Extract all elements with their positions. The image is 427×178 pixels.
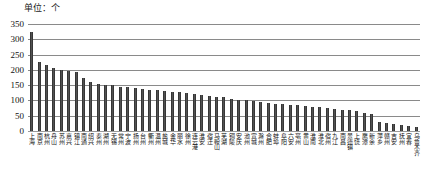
x-axis-label: 宜春 [406, 133, 412, 144]
plot-area [28, 24, 420, 131]
gridline-0 [28, 131, 420, 132]
bar [385, 123, 388, 131]
bar-slot [316, 24, 323, 131]
x-axis-label: 杭州 [43, 133, 49, 144]
bar-slot [235, 24, 242, 131]
x-axis-label: 丽水 [176, 133, 182, 144]
bar-slot [58, 24, 65, 131]
x-axis-label: 赣州 [383, 133, 389, 144]
bar-slot [287, 24, 294, 131]
bar [111, 85, 114, 131]
x-axis-label: 滁州 [258, 133, 264, 144]
x-axis-label: 黄山 [302, 133, 308, 144]
bar [163, 91, 166, 131]
bar-slot [109, 24, 116, 131]
bar [311, 107, 314, 131]
bar-slot [294, 24, 301, 131]
x-label-slot: 衢州 [146, 133, 153, 178]
bar [148, 90, 151, 131]
bar-slot [198, 24, 205, 131]
bar-slot [242, 24, 249, 131]
x-label-slot: 舟山 [50, 133, 57, 178]
x-label-slot: 嘉兴 [65, 133, 72, 178]
bar [252, 101, 255, 131]
y-tick-350: 350 [11, 20, 25, 29]
x-label-slot: 池州 [242, 133, 249, 178]
bar-slot [95, 24, 102, 131]
bar [245, 100, 248, 131]
x-axis-label: 盐城 [162, 133, 168, 144]
x-axis-label: 衢州 [147, 133, 153, 144]
bar-slot [398, 24, 405, 131]
x-label-slot: 安庆 [235, 133, 242, 178]
x-label-slot: 淮北 [316, 133, 323, 178]
x-axis-label: 鹰潭 [361, 133, 367, 144]
x-axis-label: 亳州 [295, 133, 301, 144]
x-label-slot: 上饶 [353, 133, 360, 178]
bar [119, 87, 122, 131]
bar [97, 84, 100, 131]
x-axis-label: 萍乡 [376, 133, 382, 144]
bar-slot [43, 24, 50, 131]
bar-slot [279, 24, 286, 131]
bar [82, 78, 85, 132]
x-label-slot: 淮安 [198, 133, 205, 178]
bar [355, 111, 358, 131]
x-label-slot: 泰州 [95, 133, 102, 178]
x-label-slot: 蚌埠 [272, 133, 279, 178]
bar [318, 107, 321, 131]
bar-slot [72, 24, 79, 131]
bar [30, 32, 33, 131]
bar [363, 113, 366, 131]
bar [415, 127, 418, 131]
x-label-slot: 九江 [331, 133, 338, 178]
x-axis-label: 宣城 [250, 133, 256, 144]
bar [259, 102, 262, 131]
bar-slot [383, 24, 390, 131]
x-axis-label: 新余 [369, 133, 375, 144]
x-label-slot: 温州 [154, 133, 161, 178]
bar [230, 99, 233, 131]
x-axis-label: 泰州 [95, 133, 101, 144]
x-axis-label: 铜陵 [228, 133, 234, 144]
bar [75, 72, 78, 131]
x-axis-label: 景德镇 [346, 133, 352, 150]
x-label-slot: 上海 [28, 133, 35, 178]
x-axis-label: 池州 [243, 133, 249, 144]
y-tick-300: 300 [11, 35, 25, 44]
x-label-slot: 乌鲁木齐 [412, 133, 419, 178]
x-label-slot: 萍乡 [375, 133, 382, 178]
bar [208, 96, 211, 131]
bar [67, 71, 70, 131]
bar-slot [309, 24, 316, 131]
bar-slot [117, 24, 124, 131]
bar [185, 93, 188, 131]
bar [156, 90, 159, 131]
x-axis-label: 南昌 [339, 133, 345, 144]
bar [141, 89, 144, 131]
bar-slot [176, 24, 183, 131]
x-label-slot: 吉安 [390, 133, 397, 178]
x-axis-label: 淮南 [309, 133, 315, 144]
x-axis-label: 淮安 [199, 133, 205, 144]
bar-slot [265, 24, 272, 131]
x-label-slot: 杭州 [43, 133, 50, 178]
x-label-slot: 盐城 [161, 133, 168, 178]
x-label-slot: 镇江 [72, 133, 79, 178]
bar-slot [87, 24, 94, 131]
bar-slot [146, 24, 153, 131]
x-axis-label: 宿迁 [206, 133, 212, 144]
chart-unit-caption: 单位：个 [24, 1, 60, 14]
bar [104, 85, 107, 131]
bar-slot [412, 24, 419, 131]
x-label-slot: 丽水 [176, 133, 183, 178]
bar-slot [124, 24, 131, 131]
bar-slot [168, 24, 175, 131]
bar [171, 92, 174, 131]
x-label-slot: 宿迁 [205, 133, 212, 178]
x-label-slot: 扬州 [131, 133, 138, 178]
bar [378, 122, 381, 131]
bar-slot [331, 24, 338, 131]
x-axis-label: 马鞍山 [213, 133, 219, 150]
bar [326, 108, 329, 131]
